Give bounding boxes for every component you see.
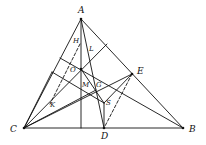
- diagram-vertex-dots: [23, 18, 185, 130]
- vertex-dot-b: [182, 127, 185, 130]
- label-point-b: B: [189, 125, 196, 134]
- label-point-c: C: [10, 125, 17, 134]
- geometry-diagram: [0, 0, 206, 145]
- segment-C-fan-1: [24, 72, 52, 128]
- label-point-d: D: [101, 132, 108, 141]
- vertex-dot-o: [80, 68, 83, 71]
- label-point-a: A: [78, 6, 85, 15]
- vertex-dot-c: [23, 127, 26, 130]
- vertex-dot-e: [131, 73, 134, 76]
- label-point-m: M: [82, 82, 89, 89]
- segment-CO-ext: [24, 44, 107, 128]
- label-point-k: K: [50, 102, 55, 109]
- label-point-s: S: [106, 100, 111, 107]
- label-point-l: L: [89, 46, 94, 53]
- label-point-h: H: [73, 38, 79, 45]
- diagram-segments: [24, 19, 183, 128]
- label-point-o: O: [70, 67, 76, 74]
- label-point-e: E: [137, 67, 144, 76]
- segment-O-B: [60, 58, 183, 128]
- segment-C-fan-2: [24, 90, 96, 128]
- vertex-dot-d: [103, 127, 106, 130]
- vertex-dot-a: [80, 18, 83, 21]
- label-point-g: G: [96, 82, 102, 89]
